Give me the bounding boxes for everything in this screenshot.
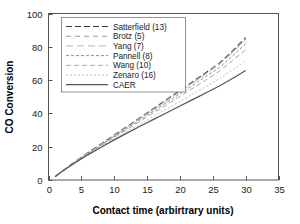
y-axis-title: CO Conversion <box>4 61 15 134</box>
x-tick-label: 10 <box>109 184 120 195</box>
legend-label: Yang (7) <box>113 42 144 51</box>
y-axis-tick-labels: 020406080100 <box>27 9 43 186</box>
co-conversion-line-chart: 05101520253035 020406080100 Satterfield … <box>0 0 300 224</box>
legend-label: Satterfield (13) <box>113 23 167 32</box>
y-tick-label: 20 <box>32 142 43 153</box>
x-tick-label: 20 <box>175 184 186 195</box>
legend-label: Zenaro (16) <box>113 71 156 80</box>
legend-label: Pannell (8) <box>113 52 153 61</box>
x-tick-label: 5 <box>79 184 84 195</box>
x-axis-tick-labels: 05101520253035 <box>47 184 285 195</box>
legend-label: CAER <box>113 81 136 90</box>
x-tick-label: 25 <box>208 184 219 195</box>
y-tick-label: 0 <box>37 175 42 186</box>
x-tick-label: 0 <box>47 184 52 195</box>
y-tick-label: 100 <box>27 9 43 20</box>
y-axis-ticks <box>49 15 53 181</box>
x-axis-title: Contact time (arbirtrary units) <box>92 205 233 216</box>
x-tick-label: 30 <box>241 184 252 195</box>
x-axis-ticks <box>50 176 280 180</box>
x-tick-label: 15 <box>142 184 153 195</box>
y-tick-label: 40 <box>32 108 43 119</box>
legend-label: Wang (10) <box>113 61 151 70</box>
y-tick-label: 60 <box>32 75 43 86</box>
legend-label: Brotz (5) <box>113 32 145 41</box>
y-tick-label: 80 <box>32 42 43 53</box>
chart-legend: Satterfield (13)Brotz (5)Yang (7)Pannell… <box>62 18 186 93</box>
chart-figure: 05101520253035 020406080100 Satterfield … <box>0 0 300 224</box>
x-tick-label: 35 <box>274 184 285 195</box>
